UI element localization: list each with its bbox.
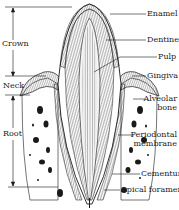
tooth bbox=[58, 4, 121, 208]
label-gingiva: Gingiva bbox=[147, 72, 178, 80]
label-periodontal-line2: membrane bbox=[130, 140, 177, 149]
label-alveolar-bone: Alveolar bone bbox=[143, 95, 177, 112]
label-enamel: Enamel bbox=[147, 10, 178, 18]
label-cementum: Cementum bbox=[141, 170, 179, 178]
label-dentine: Dentine bbox=[147, 36, 179, 44]
label-periodontal-membrane: Periodontal membrane bbox=[130, 131, 177, 148]
label-apical-foramen: Apical foramen bbox=[121, 186, 179, 194]
label-pulp: Pulp bbox=[158, 53, 176, 61]
label-neck: Neck bbox=[3, 82, 24, 90]
label-alveolar-bone-line2: bone bbox=[143, 104, 177, 113]
label-crown: Crown bbox=[2, 40, 29, 48]
label-root: Root bbox=[3, 130, 22, 138]
